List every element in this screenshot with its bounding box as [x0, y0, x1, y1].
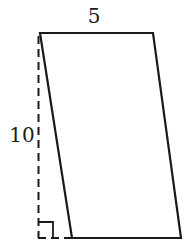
parallelogram-shape	[40, 33, 181, 238]
top-side-label: 5	[88, 4, 101, 28]
parallelogram-diagram: 5 10	[0, 0, 194, 250]
height-label: 10	[9, 123, 34, 147]
right-angle-marker-icon	[39, 222, 54, 238]
